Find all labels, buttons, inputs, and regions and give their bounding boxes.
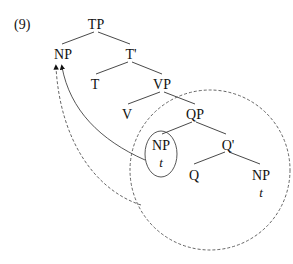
edge-vp-qp xyxy=(164,92,195,104)
trace-np-comp: t xyxy=(259,185,263,200)
node-t-bar: T' xyxy=(125,47,136,62)
edge-qbar-q xyxy=(194,152,225,164)
node-np-inner: NP xyxy=(152,138,170,153)
edge-tp-np xyxy=(62,32,94,44)
node-np-spec: NP xyxy=(54,47,72,62)
edge-vp-v xyxy=(128,92,160,104)
node-np-comp: NP xyxy=(252,168,270,183)
edge-qp-qbar xyxy=(196,122,226,134)
edge-tbar-t xyxy=(96,62,128,74)
trace-np-inner: t xyxy=(159,155,163,170)
node-tp: TP xyxy=(88,17,105,32)
syntax-tree-diagram: (9) TP NP T' T VP V QP NP t Q' Q NP t xyxy=(0,0,293,264)
node-q-bar: Q' xyxy=(222,138,235,153)
node-t-head: T xyxy=(91,77,100,92)
node-v: V xyxy=(122,107,132,122)
node-vp: VP xyxy=(153,77,171,92)
example-number: (9) xyxy=(14,17,31,33)
edge-qbar-np xyxy=(229,152,260,164)
node-qp: QP xyxy=(186,107,204,122)
edge-tbar-vp xyxy=(132,62,162,74)
movement-arrow-solid xyxy=(62,67,145,160)
node-q-head: Q xyxy=(189,168,199,183)
edge-tp-tbar xyxy=(98,32,130,44)
